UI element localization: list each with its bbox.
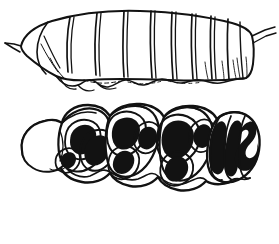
illustration-canvas: [0, 0, 279, 244]
illustration-plate: [0, 0, 279, 244]
